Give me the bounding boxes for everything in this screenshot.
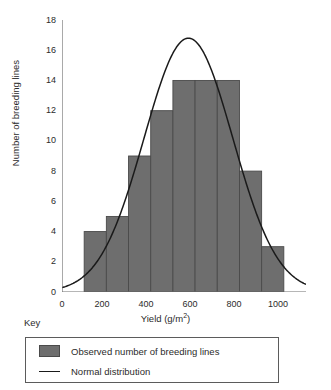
histogram-bar bbox=[84, 232, 106, 292]
y-tick-12: 12 bbox=[34, 106, 56, 115]
y-tick-14: 14 bbox=[34, 76, 56, 85]
key-entry-observed: Observed number of breeding lines bbox=[26, 341, 219, 361]
x-tick-1000: 1000 bbox=[258, 300, 298, 309]
x-axis-label-main: Yield (g/m bbox=[141, 313, 183, 324]
y-tick-8: 8 bbox=[34, 167, 56, 176]
y-tick-16: 16 bbox=[34, 46, 56, 55]
histogram-bar bbox=[217, 80, 239, 292]
y-axis-label: Number of breeding lines bbox=[10, 60, 26, 260]
key-entry-normal: Normal distribution bbox=[26, 361, 150, 381]
x-axis-label: Yield (g/m2) bbox=[0, 312, 331, 324]
key-line-icon bbox=[39, 371, 60, 372]
chart-svg bbox=[62, 20, 306, 292]
key-label-observed: Observed number of breeding lines bbox=[71, 346, 219, 357]
y-tick-4: 4 bbox=[34, 227, 56, 236]
key-title: Key bbox=[24, 317, 40, 328]
plot-area bbox=[62, 20, 306, 292]
histogram-bar bbox=[262, 247, 284, 292]
y-tick-6: 6 bbox=[34, 197, 56, 206]
histogram-bar bbox=[173, 80, 195, 292]
x-tick-600: 600 bbox=[170, 300, 210, 309]
x-tick-800: 800 bbox=[214, 300, 254, 309]
histogram-bars bbox=[84, 80, 284, 292]
x-axis-label-tail: ) bbox=[187, 313, 190, 324]
histogram-bar bbox=[239, 171, 261, 292]
x-tick-200: 200 bbox=[82, 300, 122, 309]
y-tick-0: 0 bbox=[34, 288, 56, 297]
y-tick-18: 18 bbox=[34, 16, 56, 25]
key-swatch-icon bbox=[39, 345, 60, 357]
x-tick-0: 0 bbox=[42, 300, 82, 309]
y-tick-2: 2 bbox=[34, 257, 56, 266]
y-axis-label-text: Number of breeding lines bbox=[10, 60, 21, 166]
key-box: Observed number of breeding lines Normal… bbox=[25, 337, 279, 383]
x-tick-400: 400 bbox=[126, 300, 166, 309]
histogram-bar bbox=[151, 111, 173, 292]
y-tick-10: 10 bbox=[34, 136, 56, 145]
histogram-bar bbox=[129, 156, 151, 292]
histogram-bar bbox=[195, 80, 217, 292]
histogram-bar bbox=[106, 216, 128, 292]
key-label-normal: Normal distribution bbox=[71, 366, 150, 377]
histogram-figure: Number of breeding lines 18 16 14 12 10 … bbox=[0, 0, 331, 390]
